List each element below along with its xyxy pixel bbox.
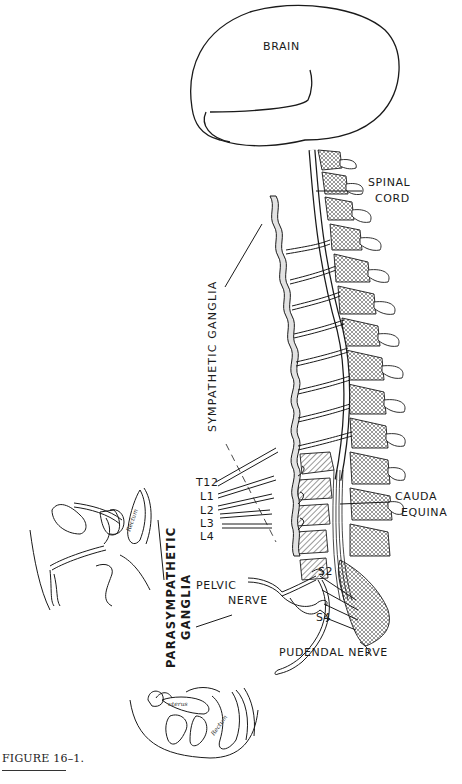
male-pelvis-inset bbox=[30, 488, 164, 610]
brain-drawing bbox=[191, 6, 399, 146]
spinal-nervous-system-figure: Rectum uterus Rectum BRAIN SPINAL CORD S… bbox=[0, 0, 462, 784]
label-s2: S2 bbox=[318, 565, 333, 578]
label-cauda: CAUDA bbox=[395, 490, 437, 503]
label-cord: CORD bbox=[375, 192, 410, 205]
label-l1: L1 bbox=[200, 490, 214, 503]
label-nerve: NERVE bbox=[228, 594, 268, 607]
anatomy-illustration: Rectum uterus Rectum bbox=[0, 0, 462, 784]
label-l4: L4 bbox=[200, 530, 214, 543]
label-spinal: SPINAL bbox=[368, 176, 410, 189]
label-t12: T12 bbox=[196, 476, 219, 489]
label-sympathetic-ganglia: SYMPATHETIC GANGLIA bbox=[206, 281, 219, 432]
label-s4: S4 bbox=[316, 611, 331, 624]
sympathetic-chain-drawing bbox=[270, 196, 300, 556]
caption-underline bbox=[2, 770, 66, 771]
label-l3: L3 bbox=[200, 517, 214, 530]
label-pelvic: PELVIC bbox=[196, 579, 237, 592]
label-l2: L2 bbox=[200, 504, 214, 517]
figure-caption: FIGURE 16–1. bbox=[2, 752, 84, 765]
label-parasympathetic: PARASYMPATHETIC bbox=[165, 527, 178, 668]
label-ganglia: GANGLIA bbox=[180, 574, 193, 640]
label-equina: EQUINA bbox=[401, 506, 447, 519]
inset-label-uterus: uterus bbox=[168, 700, 188, 707]
label-pudendal-nerve: PUDENDAL NERVE bbox=[279, 646, 388, 659]
inset-label-rectum-female: Rectum bbox=[209, 713, 229, 737]
inset-label-rectum-male: Rectum bbox=[124, 508, 139, 534]
spinal-column-drawing bbox=[296, 150, 405, 656]
label-brain: BRAIN bbox=[263, 40, 300, 53]
lumbar-splanchnic-nerves bbox=[216, 448, 278, 528]
female-pelvis-inset bbox=[130, 688, 258, 759]
